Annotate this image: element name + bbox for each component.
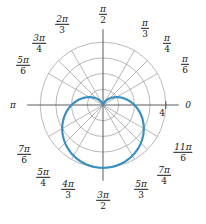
grid-spoke-240deg <box>72 105 103 159</box>
polar-plot-figure: 0π6π4π3π22π33π45π6π7π65π44π33π25π37π411π… <box>0 0 206 224</box>
grid-spoke-330deg <box>103 105 157 136</box>
polar-plot-canvas <box>0 0 206 224</box>
grid-spoke-300deg <box>103 105 134 159</box>
grid-spoke-210deg <box>49 105 103 136</box>
